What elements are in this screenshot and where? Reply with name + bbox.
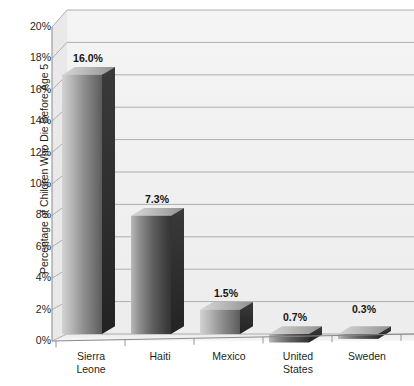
x-label-mexico-line1: Mexico — [190, 350, 268, 363]
x-label-sierra-leone-line1: Sierra — [52, 350, 130, 363]
value-label-mexico: 1.5% — [196, 287, 256, 299]
y-tick-label-18: 18% — [17, 52, 51, 63]
y-tick-label-14: 14% — [17, 115, 51, 126]
value-label-haiti: 7.3% — [127, 193, 187, 205]
x-label-haiti: Haiti — [121, 350, 199, 363]
y-tick-label-8: 8% — [17, 209, 51, 220]
x-label-haiti-line1: Haiti — [121, 350, 199, 363]
x-label-united-states-line1: United — [259, 350, 337, 363]
x-axis-category-labels: Sierra Leone Haiti Mexico United States … — [0, 346, 414, 386]
y-tick-label-0: 0% — [17, 335, 51, 346]
y-tick-label-10: 10% — [17, 178, 51, 189]
bar-mexico — [200, 302, 253, 334]
y-axis-tick-labels: 20% 18% 16% 14% 12% 10% 8% 6% 4% 2% 0% — [0, 0, 51, 386]
x-label-united-states: United States — [259, 350, 337, 376]
bar-haiti — [131, 208, 184, 334]
value-label-sierra-leone: 16.0% — [58, 52, 118, 64]
value-label-sweden: 0.3% — [334, 303, 394, 315]
bar-chart: Percentage of Children Who Die Before Ag… — [0, 0, 414, 386]
x-label-united-states-line2: States — [259, 363, 337, 376]
y-tick-label-16: 16% — [17, 84, 51, 95]
y-tick-label-2: 2% — [17, 304, 51, 315]
x-label-sierra-leone: Sierra Leone — [52, 350, 130, 376]
y-tick-label-4: 4% — [17, 272, 51, 283]
x-label-sweden: Sweden — [328, 350, 406, 363]
x-label-sierra-leone-line2: Leone — [52, 363, 130, 376]
value-label-united-states: 0.7% — [265, 311, 325, 323]
y-tick-label-20: 20% — [17, 21, 51, 32]
y-tick-label-6: 6% — [17, 241, 51, 252]
bar-sierra-leone — [62, 67, 115, 334]
y-tick-label-12: 12% — [17, 147, 51, 158]
x-label-mexico: Mexico — [190, 350, 268, 363]
x-label-sweden-line1: Sweden — [328, 350, 406, 363]
